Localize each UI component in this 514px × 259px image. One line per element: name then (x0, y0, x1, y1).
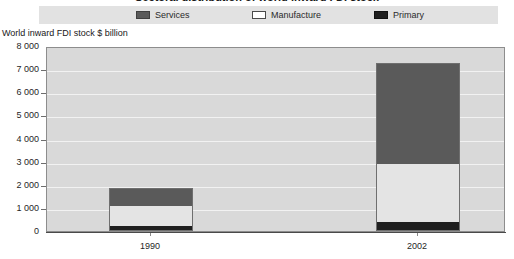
y-axis-tick-label: 7 000 (1, 65, 39, 74)
y-axis-tick-label: 3 000 (1, 158, 39, 167)
legend-item-manufacture[interactable]: Manufacture (252, 6, 321, 24)
legend-swatch-services-icon (136, 11, 150, 19)
plot-area-wrapper (46, 47, 505, 232)
legend-label-primary: Primary (393, 11, 424, 20)
bar-2002[interactable] (376, 63, 460, 231)
legend-swatch-primary-icon (374, 11, 388, 19)
y-axis-tick-label: 5 000 (1, 111, 39, 120)
legend-swatch-manufacture-icon (252, 11, 266, 19)
chart-title-clipped: Sectoral distribution of world inward FD… (0, 0, 514, 5)
y-axis-tick-label: 1 000 (1, 204, 39, 213)
bar-segment-primary-2002[interactable] (377, 222, 459, 230)
y-axis-tick-label: 6 000 (1, 88, 39, 97)
legend-label-services: Services (155, 11, 190, 20)
bar-segment-manufacture-2002[interactable] (377, 164, 459, 222)
chart-legend: Services Manufacture Primary (39, 6, 498, 24)
plot-area (46, 47, 505, 232)
x-axis-tick (150, 233, 151, 236)
x-axis-label-2002: 2002 (377, 241, 457, 251)
y-axis-tick-label: 2 000 (1, 181, 39, 190)
y-axis-tick-label: 4 000 (1, 135, 39, 144)
x-axis-baseline (46, 232, 506, 233)
y-axis-labels: 8 0007 0006 0005 0004 0003 0002 0001 000… (0, 0, 39, 259)
bar-segment-primary-1990[interactable] (110, 226, 192, 230)
y-axis-tick-label: 8 000 (1, 42, 39, 51)
bar-1990[interactable] (109, 188, 193, 231)
legend-label-manufacture: Manufacture (271, 11, 321, 20)
legend-item-primary[interactable]: Primary (374, 6, 424, 24)
bar-segment-manufacture-1990[interactable] (110, 206, 192, 226)
x-axis-tick (417, 233, 418, 236)
bar-segment-services-1990[interactable] (110, 189, 192, 206)
legend-item-services[interactable]: Services (136, 6, 190, 24)
x-axis-label-1990: 1990 (110, 241, 190, 251)
y-axis-tick-label: 0 (1, 227, 39, 236)
bar-segment-services-2002[interactable] (377, 64, 459, 164)
chart-title-text: Sectoral distribution of world inward FD… (0, 0, 514, 3)
chart-figure: Sectoral distribution of world inward FD… (0, 0, 514, 259)
